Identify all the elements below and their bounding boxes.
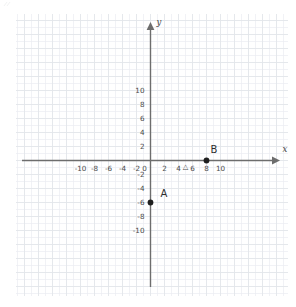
coordinate-plane-figure: x y -10-8-6-4-20246810 108642-2-4-6-8-10… [0,0,296,307]
y-axis-label: y [156,17,162,27]
x-axis-arrow-icon [272,157,280,165]
stray-pencil-mark [4,2,10,6]
x-axis-label: x [283,144,288,154]
y-axis [147,22,155,287]
y-tick-label: 6 [140,114,145,123]
x-tick-label: 8 [204,164,209,173]
point-a-dot [148,200,154,206]
minor-grid-lines [16,14,288,296]
plot-canvas: x y -10-8-6-4-20246810 108642-2-4-6-8-10… [0,0,296,307]
x-tick-label: 10 [216,164,226,173]
point-b-label: B [211,144,218,155]
y-tick-label: 2 [140,142,145,151]
x-tick-label: 4 [176,164,181,173]
x-tick-label: -8 [91,164,99,173]
y-tick-label: 10 [135,86,145,95]
y-tick-label: -4 [137,184,145,193]
x-tick-label: -6 [105,164,113,173]
triangle-marker-icon: △ [183,162,189,171]
y-tick-label: -6 [137,198,145,207]
x-tick-label: 6 [190,164,195,173]
y-axis-arrow-icon [147,22,155,30]
x-tick-label: -4 [119,164,127,173]
y-tick-label: -10 [133,226,145,235]
major-grid-lines [16,14,288,296]
y-tick-label: 8 [140,100,145,109]
y-tick-label: -2 [137,170,144,179]
point-b-dot [204,158,210,164]
point-a-label: A [161,188,168,199]
y-tick-label: -8 [137,212,145,221]
x-tick-label: -10 [75,164,87,173]
y-tick-label: 4 [140,128,145,137]
extra-markers: △ [183,162,189,171]
x-tick-label: 2 [162,164,167,173]
